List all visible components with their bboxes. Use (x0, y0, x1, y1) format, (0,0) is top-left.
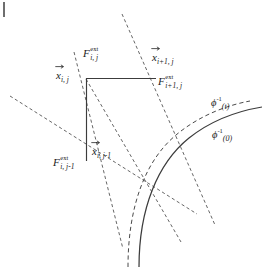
radial-dashed-lines (10, 14, 215, 249)
label-node-x-ij-text: x (56, 69, 61, 81)
label-force-ij-sub: i, j (90, 54, 98, 62)
radial-line-4 (86, 79, 181, 242)
label-force-i1j-sub: i+1, j (165, 82, 182, 90)
label-force-ij-text: F (83, 47, 90, 59)
label-node-x-ijm1-symbol: x (92, 146, 97, 157)
label-force-ijm1-sub: i, j-1 (60, 163, 74, 171)
label-force-i1j-text: F (158, 75, 165, 87)
arc-phi-inverse-t (128, 101, 250, 267)
label-force-ijm1-sup: ext (60, 155, 68, 162)
label-node-x-i1j: xi+1, j (152, 52, 174, 66)
label-node-x-i1j-sub: i+1, j (157, 57, 174, 66)
label-phi-inverse-t: ϕ-1(t) (211, 96, 229, 111)
label-force-ij: F ext i, j (83, 48, 90, 59)
label-node-x-ij-sub: i, j (61, 75, 69, 84)
label-node-x-ijm1: xi, j-1 (92, 146, 111, 160)
label-force-ij-sup: ext (90, 46, 98, 53)
label-phi-inverse-t-arg: (t) (222, 102, 230, 111)
figure-root: F ext i, j xi, j xi+1, j F ext i+1, j (0, 0, 265, 267)
arc-phi-inverse-0 (139, 107, 262, 267)
label-force-ijm1: F ext i, j-1 (53, 157, 60, 168)
label-force-i1j-sup: ext (165, 74, 173, 81)
label-phi-inverse-0-arg: (0) (223, 134, 232, 143)
radial-line-2 (122, 14, 215, 225)
label-node-x-ijm1-text: x (92, 145, 97, 157)
label-node-x-ijm1-sub: i, j-1 (97, 151, 111, 160)
label-force-i1j: F ext i+1, j (158, 76, 165, 87)
label-node-x-ij-symbol: x (56, 70, 61, 81)
label-force-ijm1-text: F (53, 156, 60, 168)
label-phi-inverse-0: ϕ-1(0) (212, 128, 232, 143)
label-node-x-ij: xi, j (56, 70, 69, 84)
label-node-x-i1j-symbol: x (152, 52, 157, 63)
label-node-x-i1j-text: x (152, 51, 157, 63)
